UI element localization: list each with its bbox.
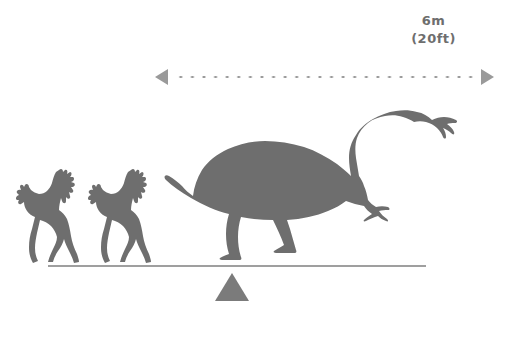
dimension-arrow (155, 69, 494, 85)
triangle-fulcrum-icon (215, 273, 249, 301)
horse-silhouette-1 (16, 168, 84, 265)
ground-line (48, 265, 426, 267)
scale-imperial-value: (20ft) (411, 30, 456, 48)
dinosaur-silhouette (163, 110, 501, 260)
dimension-dotted-line (173, 75, 476, 79)
scale-label: 6m (20ft) (411, 12, 456, 48)
size-comparison-figure: 6m (20ft) (0, 0, 514, 337)
arrow-right-icon (481, 69, 494, 85)
scale-metric-value: 6m (411, 12, 456, 30)
arrow-left-icon (155, 69, 168, 85)
horse-silhouette-2 (88, 168, 156, 265)
